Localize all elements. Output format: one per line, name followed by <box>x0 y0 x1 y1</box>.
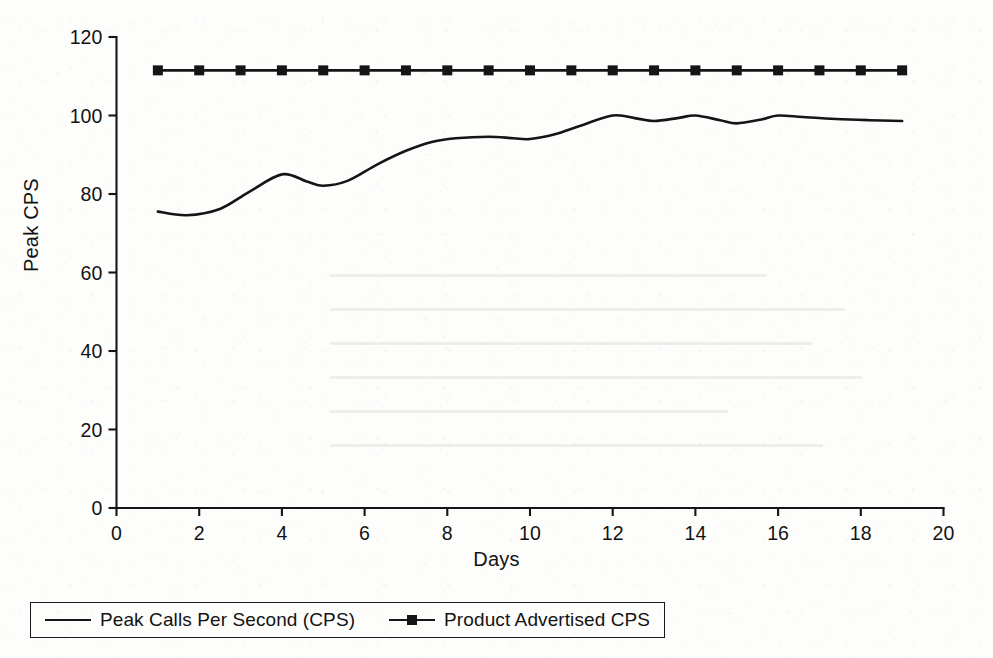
data-point-marker <box>690 65 700 75</box>
x-tick-label: 14 <box>684 522 706 545</box>
legend-line-square-swatch-icon <box>389 613 435 627</box>
y-tick-label: 20 <box>55 418 103 441</box>
x-tick-label: 12 <box>602 522 624 545</box>
y-tick-label: 80 <box>55 183 103 206</box>
x-tick-label: 18 <box>850 522 872 545</box>
y-tick-label: 0 <box>55 497 103 520</box>
y-tick-label: 40 <box>55 340 103 363</box>
x-tick-label: 0 <box>111 522 122 545</box>
data-point-marker <box>814 65 824 75</box>
x-tick-label: 16 <box>767 522 789 545</box>
legend-item-peak-calls-per-second: Peak Calls Per Second (CPS) <box>45 609 355 631</box>
y-tick-label: 60 <box>55 261 103 284</box>
legend-item-label: Product Advertised CPS <box>444 609 650 631</box>
chart-legend: Peak Calls Per Second (CPS) Product Adve… <box>30 602 665 638</box>
x-tick-label: 4 <box>276 522 287 545</box>
legend-item-label: Peak Calls Per Second (CPS) <box>100 609 355 631</box>
series-line-peak-calls-per-second <box>158 115 902 215</box>
x-axis-title: Days <box>0 548 993 571</box>
data-point-marker <box>401 65 411 75</box>
y-tick-label: 120 <box>55 26 103 49</box>
axes-group <box>109 37 944 516</box>
data-point-marker <box>484 65 494 75</box>
data-point-marker <box>318 65 328 75</box>
y-axis-title: Peak CPS <box>20 178 43 272</box>
data-point-marker <box>360 65 370 75</box>
x-tick-label: 2 <box>194 522 205 545</box>
chart-figure: 020406080100120 02468101214161820 Peak C… <box>0 0 993 658</box>
x-tick-label: 10 <box>519 522 541 545</box>
legend-item-product-advertised-cps: Product Advertised CPS <box>389 609 650 631</box>
x-axis-ticks <box>117 508 944 516</box>
x-tick-label: 8 <box>442 522 453 545</box>
data-point-marker <box>856 65 866 75</box>
y-axis-ticks <box>109 37 117 508</box>
data-point-marker <box>566 65 576 75</box>
data-series-group <box>153 65 907 215</box>
x-tick-label: 20 <box>933 522 955 545</box>
data-point-marker <box>897 65 907 75</box>
data-point-marker <box>277 65 287 75</box>
y-tick-label: 100 <box>55 104 103 127</box>
x-tick-label: 6 <box>359 522 370 545</box>
data-point-marker <box>649 65 659 75</box>
data-point-marker <box>442 65 452 75</box>
data-point-marker <box>773 65 783 75</box>
legend-line-swatch-icon <box>45 613 91 627</box>
data-point-marker <box>732 65 742 75</box>
data-point-marker <box>608 65 618 75</box>
data-point-marker <box>525 65 535 75</box>
data-point-marker <box>153 65 163 75</box>
data-point-marker <box>194 65 204 75</box>
data-point-marker <box>236 65 246 75</box>
